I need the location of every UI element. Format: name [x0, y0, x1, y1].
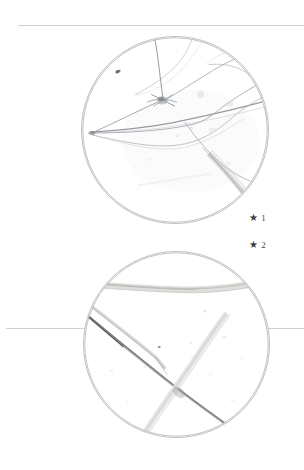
figure-page: ★ 1 ★ 2 [0, 0, 304, 470]
legend-item-1[interactable]: ★ 1 [249, 213, 266, 223]
fiber-micrograph-2 [84, 252, 269, 437]
legend-label-2: 2 [261, 241, 266, 250]
figure-panel-1[interactable] [81, 36, 269, 224]
figure-panel-2[interactable] [83, 251, 270, 438]
legend-item-2[interactable]: ★ 2 [249, 240, 266, 250]
top-rule [18, 25, 304, 26]
star-icon: ★ [249, 240, 258, 250]
fiber-micrograph-1 [82, 37, 268, 223]
legend-label-1: 1 [261, 214, 266, 223]
star-icon: ★ [249, 213, 258, 223]
